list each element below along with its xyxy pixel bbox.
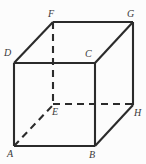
cube-edge-group [14, 22, 133, 146]
cube-edge-BH [95, 105, 133, 146]
vertex-label-g: G [127, 9, 134, 19]
cube-edge-DF [14, 22, 53, 63]
vertex-label-b: B [89, 150, 95, 160]
cube-svg [0, 0, 146, 164]
vertex-label-a: A [7, 149, 13, 159]
vertex-label-h: H [134, 108, 141, 118]
cube-edge-AE [14, 105, 53, 146]
vertex-label-c: C [85, 49, 92, 59]
vertex-label-f: F [48, 9, 54, 19]
vertex-label-d: D [4, 48, 11, 58]
cube-edge-CG [95, 22, 133, 63]
vertex-label-e: E [52, 107, 58, 117]
cube-diagram: ABCDEFGH [0, 0, 146, 164]
